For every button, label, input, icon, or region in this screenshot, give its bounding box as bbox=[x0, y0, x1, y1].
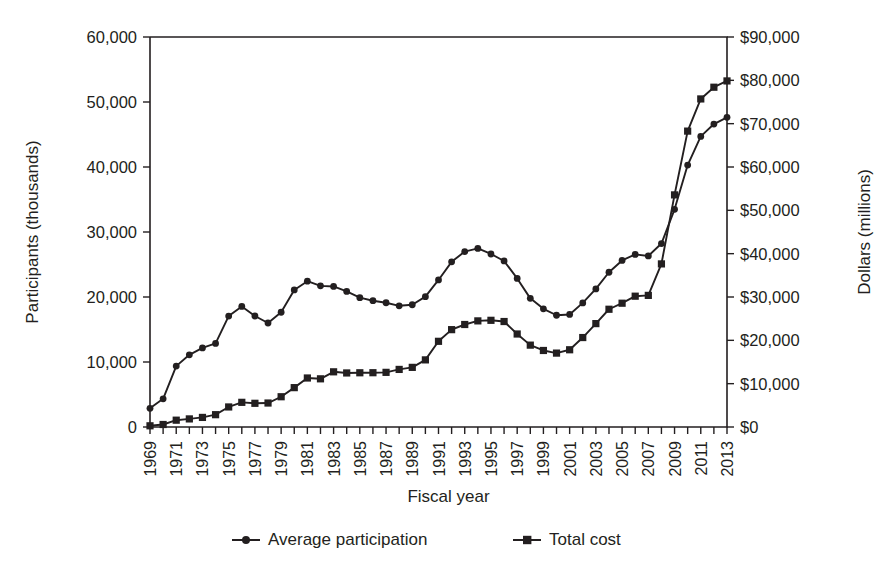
data-point-circle bbox=[173, 363, 180, 370]
x-tick-label: 2011 bbox=[693, 441, 710, 476]
data-point-circle bbox=[540, 305, 547, 312]
data-point-circle bbox=[317, 282, 324, 289]
x-tick-label: 1983 bbox=[326, 441, 343, 477]
data-point-square bbox=[369, 369, 376, 376]
data-point-circle bbox=[343, 288, 350, 295]
data-point-square bbox=[238, 399, 245, 406]
series-group bbox=[146, 77, 730, 429]
data-point-circle bbox=[619, 257, 626, 264]
y2-tick-label: $70,000 bbox=[740, 115, 800, 133]
data-point-circle bbox=[330, 283, 337, 290]
x-tick-label: 2013 bbox=[719, 441, 736, 477]
series-average-participation bbox=[147, 114, 731, 412]
data-point-circle bbox=[186, 351, 193, 358]
data-point-circle bbox=[238, 303, 245, 310]
data-point-circle bbox=[370, 297, 377, 304]
y2-tick-label: $20,000 bbox=[740, 331, 800, 349]
data-point-square bbox=[212, 411, 219, 418]
series-line-path bbox=[150, 81, 727, 426]
chart-legend: Average participationTotal cost bbox=[232, 530, 621, 549]
y2-axis-ticks: $0$10,000$20,000$30,000$40,000$50,000$60… bbox=[727, 28, 800, 436]
data-point-square bbox=[291, 384, 298, 391]
data-point-square bbox=[618, 300, 625, 307]
x-tick-label: 1975 bbox=[221, 441, 238, 477]
line-chart: 010,00020,00030,00040,00050,00060,000 $0… bbox=[0, 0, 892, 569]
x-tick-label: 2001 bbox=[562, 441, 579, 477]
data-point-square bbox=[527, 342, 534, 349]
x-tick-label: 1993 bbox=[457, 441, 474, 477]
data-point-circle bbox=[632, 251, 639, 258]
y2-tick-label: $10,000 bbox=[740, 375, 800, 393]
data-point-circle bbox=[474, 245, 481, 252]
data-point-square bbox=[514, 330, 521, 337]
x-tick-label: 1999 bbox=[535, 441, 552, 477]
data-point-square bbox=[605, 306, 612, 313]
data-point-circle bbox=[553, 312, 560, 319]
data-point-square bbox=[487, 317, 494, 324]
data-point-square bbox=[317, 375, 324, 382]
x-tick-label: 1971 bbox=[168, 441, 185, 477]
data-point-circle bbox=[658, 240, 665, 247]
data-point-square bbox=[225, 403, 232, 410]
axis-frame bbox=[150, 37, 727, 427]
data-point-circle bbox=[265, 320, 272, 327]
y2-tick-label: $90,000 bbox=[740, 28, 800, 46]
data-point-square bbox=[264, 399, 271, 406]
y-tick-label: 0 bbox=[128, 418, 137, 436]
data-point-circle bbox=[488, 251, 495, 258]
y2-tick-label: $40,000 bbox=[740, 245, 800, 263]
data-point-circle bbox=[435, 277, 442, 284]
x-tick-label: 1987 bbox=[378, 441, 395, 477]
data-point-square bbox=[173, 417, 180, 424]
data-point-square bbox=[500, 318, 507, 325]
data-point-circle bbox=[212, 340, 219, 347]
data-point-square bbox=[658, 260, 665, 267]
data-point-square bbox=[671, 191, 678, 198]
data-point-square bbox=[199, 414, 206, 421]
y2-axis-title: Dollars (millions) bbox=[855, 169, 874, 295]
x-tick-label: 1989 bbox=[404, 441, 421, 477]
y2-tick-label: $0 bbox=[740, 418, 758, 436]
data-point-circle bbox=[356, 294, 363, 301]
x-tick-label: 1979 bbox=[273, 441, 290, 477]
data-point-circle bbox=[291, 287, 298, 294]
data-point-square bbox=[632, 293, 639, 300]
y2-tick-label: $60,000 bbox=[740, 158, 800, 176]
data-point-square bbox=[710, 84, 717, 91]
data-point-square bbox=[461, 321, 468, 328]
x-axis-ticks: 1969197119731975197719791981198319851987… bbox=[142, 427, 736, 477]
data-point-circle bbox=[527, 295, 534, 302]
y-tick-label: 30,000 bbox=[87, 223, 137, 241]
x-tick-label: 1991 bbox=[431, 441, 448, 477]
legend-item-average-participation[interactable]: Average participation bbox=[232, 530, 427, 549]
data-point-circle bbox=[225, 313, 232, 320]
data-point-square bbox=[723, 77, 730, 84]
data-point-square bbox=[540, 347, 547, 354]
data-point-circle bbox=[396, 302, 403, 309]
y-tick-label: 60,000 bbox=[87, 28, 137, 46]
y-tick-label: 20,000 bbox=[87, 288, 137, 306]
data-point-circle bbox=[579, 299, 586, 306]
data-point-square bbox=[566, 346, 573, 353]
x-tick-label: 2003 bbox=[588, 441, 605, 477]
legend-marker-circle bbox=[242, 536, 250, 544]
data-point-square bbox=[278, 393, 285, 400]
data-point-square bbox=[435, 338, 442, 345]
y-tick-label: 10,000 bbox=[87, 353, 137, 371]
data-point-circle bbox=[252, 313, 259, 320]
data-point-circle bbox=[566, 311, 573, 318]
data-point-circle bbox=[409, 301, 416, 308]
data-point-square bbox=[382, 369, 389, 376]
legend-label: Average participation bbox=[268, 530, 427, 549]
data-point-square bbox=[343, 369, 350, 376]
data-point-square bbox=[409, 364, 416, 371]
data-point-square bbox=[579, 334, 586, 341]
data-point-square bbox=[186, 415, 193, 422]
data-point-circle bbox=[501, 258, 508, 265]
data-point-circle bbox=[645, 253, 652, 260]
x-axis-title: Fiscal year bbox=[407, 487, 490, 506]
data-point-circle bbox=[160, 395, 167, 402]
x-tick-label: 1997 bbox=[509, 441, 526, 477]
y2-tick-label: $30,000 bbox=[740, 288, 800, 306]
legend-item-total-cost[interactable]: Total cost bbox=[513, 530, 621, 549]
